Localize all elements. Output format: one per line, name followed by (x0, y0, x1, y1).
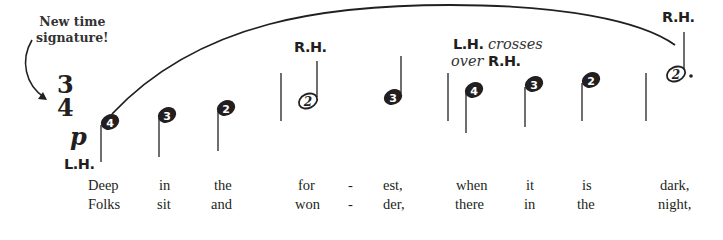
lyric-word: the (214, 177, 232, 194)
lyric-word: is (582, 177, 592, 194)
note-finger-2-crossover: 2 (579, 69, 603, 121)
note-finger-4-crossover: 4 (462, 79, 486, 133)
svg-text:2: 2 (222, 103, 230, 116)
callout-arrow-icon (26, 40, 47, 100)
svg-text:4: 4 (470, 85, 478, 98)
svg-text:2: 2 (303, 95, 312, 109)
augmentation-dot (689, 74, 693, 78)
note-finger-2: 2 (214, 97, 238, 151)
svg-text:3: 3 (530, 79, 538, 92)
lyric-word: sit (157, 196, 171, 213)
lyric-word: night, (658, 196, 691, 213)
svg-text:2: 2 (587, 75, 595, 88)
lyric-word: when (456, 177, 487, 194)
note-finger-3: 3 (155, 104, 179, 157)
lyric-word: and (211, 196, 232, 213)
lyric-word: there (455, 196, 484, 213)
svg-text:3: 3 (163, 110, 171, 123)
svg-text:2: 2 (671, 68, 680, 82)
lyric-word: for (298, 177, 315, 194)
lyric-word: in (159, 177, 170, 194)
lyric-word: Folks (88, 196, 120, 213)
note-finger-3-crossover: 3 (522, 73, 546, 127)
lyric-hyphen: - (348, 196, 353, 213)
lyric-word: it (526, 177, 534, 194)
lyric-word: Deep (88, 177, 119, 194)
note-finger-4: 4 (98, 111, 122, 162)
svg-text:3: 3 (389, 92, 397, 105)
lyric-word: der, (383, 196, 405, 213)
lyric-hyphen: - (348, 177, 353, 194)
lyric-word: est, (383, 177, 403, 194)
lyric-word: in (524, 196, 535, 213)
svg-text:4: 4 (106, 117, 114, 130)
half-note-finger-2: 2 (296, 61, 319, 111)
lyric-word: dark, (660, 177, 689, 194)
lyric-word: won (295, 196, 320, 213)
note-finger-3-stem-up: 3 (381, 56, 405, 108)
lyric-word: the (577, 196, 595, 213)
